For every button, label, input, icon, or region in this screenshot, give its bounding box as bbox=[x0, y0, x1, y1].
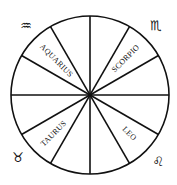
label-taurus: TAURUS bbox=[39, 119, 68, 148]
label-leo: LEO bbox=[121, 125, 139, 143]
zodiac-wheel: AQUARIUS SCORPIO TAURUS LEO ♒ ♏ ♉ ♌ bbox=[0, 0, 177, 185]
taurus-symbol-icon: ♉ bbox=[12, 150, 24, 165]
leo-symbol-icon: ♌ bbox=[152, 154, 164, 169]
aquarius-symbol-icon: ♒ bbox=[20, 18, 32, 33]
label-scorpio: SCORPIO bbox=[110, 43, 141, 74]
scorpio-symbol-icon: ♏ bbox=[150, 18, 162, 33]
